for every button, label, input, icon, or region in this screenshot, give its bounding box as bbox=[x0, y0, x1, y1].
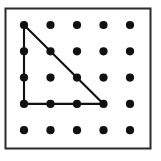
grid-dot bbox=[99, 47, 107, 55]
grid-dot bbox=[73, 74, 81, 82]
grid-dot bbox=[73, 126, 81, 134]
grid-dot bbox=[20, 74, 28, 82]
grid-dot bbox=[20, 21, 28, 29]
grid-dot bbox=[20, 100, 28, 108]
grid-dot bbox=[73, 100, 81, 108]
grid-dot bbox=[126, 21, 134, 29]
geoboard-canvas bbox=[0, 0, 161, 161]
grid-dot bbox=[46, 21, 54, 29]
grid-dot bbox=[99, 126, 107, 134]
geoboard-figure: A five by five array of dots forming a g… bbox=[0, 0, 161, 161]
grid-dot bbox=[46, 47, 54, 55]
grid-dot bbox=[126, 126, 134, 134]
grid-dot bbox=[99, 74, 107, 82]
grid-dot bbox=[99, 100, 107, 108]
grid-dot bbox=[46, 126, 54, 134]
grid-dot bbox=[73, 47, 81, 55]
grid-dot bbox=[99, 21, 107, 29]
grid-dot bbox=[126, 100, 134, 108]
grid-dot bbox=[126, 47, 134, 55]
grid-dot bbox=[126, 74, 134, 82]
grid-dot bbox=[20, 126, 28, 134]
grid-dot bbox=[73, 21, 81, 29]
grid-dot bbox=[46, 100, 54, 108]
grid-dot bbox=[20, 47, 28, 55]
grid-dot bbox=[46, 74, 54, 82]
